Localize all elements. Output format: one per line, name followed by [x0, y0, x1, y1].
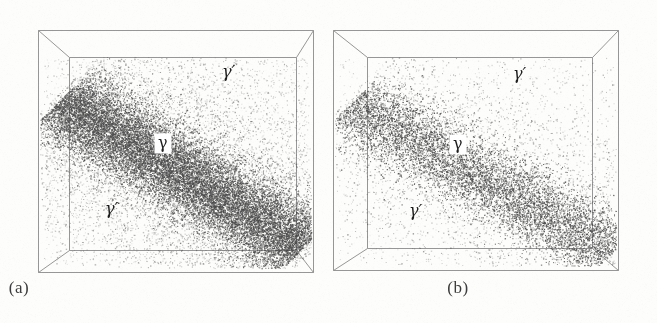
- panel-a: (a): [0, 0, 328, 323]
- figure-atom-probe-panels: (a) (b) γ′γγ′γ′γγ′: [0, 0, 657, 323]
- panel-a-caption: (a): [0, 278, 183, 298]
- panel-b-gamma-matrix: γ: [450, 135, 466, 154]
- panel-b-pointcloud: [329, 0, 657, 300]
- panel-a-gamma-matrix: γ: [155, 134, 171, 153]
- panel-b-caption: (b): [294, 278, 622, 298]
- panel-a-gamma-prime-upper-right: γ′: [222, 64, 235, 80]
- panel-b-gamma-prime-upper-right: γ′: [513, 66, 526, 82]
- panel-a-gamma-prime-lower-left: γ′: [105, 201, 118, 217]
- panel-b-gamma-prime-lower-left: γ′: [409, 203, 422, 219]
- panel-b: (b): [329, 0, 657, 323]
